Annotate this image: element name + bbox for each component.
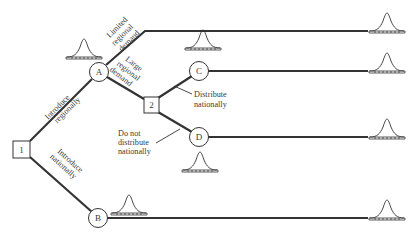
edge-do-not-distribute (158, 112, 192, 132)
chance-node-B: B (89, 209, 108, 228)
node-D-label: D (196, 132, 203, 142)
distribution-icon-D (182, 152, 218, 172)
outcome-distribution-icon-2 (369, 53, 405, 73)
decision-tree-diagram: 1 A 2 C D B Introduce regionally Introdu… (0, 0, 417, 236)
label-line: Distribute (194, 90, 227, 99)
decision-node-2: 2 (144, 97, 159, 113)
node-1-label: 1 (19, 145, 24, 155)
outcome-distribution-icon-1 (369, 13, 405, 33)
outcome-distribution-icon-3 (369, 119, 405, 139)
edge-limited-regional-demand (106, 31, 368, 65)
outcome-distribution-icon-4 (369, 200, 405, 220)
label-limited-regional-demand: Limited regional demand (103, 15, 142, 54)
chance-node-A: A (90, 63, 109, 82)
pointer-do-not-distribute (156, 129, 180, 143)
node-A-label: A (96, 67, 103, 77)
pointer-distribute (174, 86, 192, 94)
label-do-not-distribute: Do not distribute nationally (118, 129, 180, 156)
node-C-label: C (196, 66, 202, 76)
chance-node-C: C (190, 62, 209, 81)
chance-node-D: D (190, 128, 209, 147)
distribution-icon-A (66, 39, 102, 59)
label-line: nationally (118, 147, 152, 156)
edge-distribute-nationally (158, 76, 192, 98)
distribution-icon-B (111, 195, 147, 215)
node-B-label: B (95, 213, 101, 223)
label-introduce-nationally: Introduce nationally (48, 145, 85, 181)
distribution-icon-C (185, 30, 221, 50)
node-2-label: 2 (149, 100, 154, 110)
label-distribute-nationally: Distribute nationally (174, 86, 228, 109)
label-line: Do not (118, 129, 141, 138)
label-line: nationally (194, 100, 228, 109)
label-line: distribute (118, 138, 149, 147)
decision-node-1: 1 (13, 141, 30, 158)
